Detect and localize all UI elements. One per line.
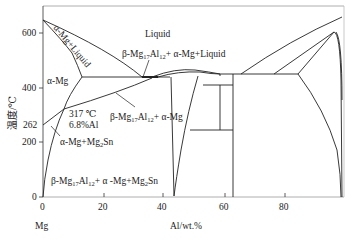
y-tick-262: 262 (23, 120, 38, 130)
label-alpha-liquid: α-Mg+Liquid (51, 23, 92, 69)
label-beta-alpha-mg2sn: β-Mg17Al12+ α -Mg+Mg2Sn (51, 176, 158, 187)
label-beta-alpha-liquid: β-Mg17Al12+ α-Mg+Liquid (122, 49, 226, 60)
x-axis-title: Al/wt.% (170, 221, 202, 231)
label-liquid: Liquid (145, 29, 171, 39)
y-tick-400: 400 (22, 83, 37, 93)
x-axis (104, 193, 285, 197)
x-tick-60: 60 (219, 202, 229, 212)
x-tick-0: 0 (40, 202, 45, 212)
y-tick-0: 0 (32, 192, 37, 202)
x-tick-20: 20 (98, 202, 108, 212)
label-alpha-mg2sn: α-Mg+Mg2Sn (60, 137, 113, 148)
label-eutectic-comp: 6.8%Al (69, 120, 99, 130)
label-alpha-mg: α-Mg (47, 76, 69, 86)
x-tick-80: 80 (279, 202, 289, 212)
label-eutectic-temp: 317 ℃ (69, 109, 97, 119)
origin-element-label: Mg (35, 221, 48, 231)
label-beta-alpha: β-Mg17Al12+ α-Mg (110, 112, 183, 123)
phase-diagram-chart: 600 400 262 200 0 温度/℃ 0 20 40 60 80 Mg … (0, 0, 352, 241)
y-tick-200: 200 (22, 137, 37, 147)
x-tick-40: 40 (157, 202, 167, 212)
phase-boundaries (43, 17, 342, 197)
y-tick-600: 600 (22, 28, 37, 38)
y-axis-title: 温度/℃ (6, 96, 18, 130)
y-axis (39, 33, 43, 197)
